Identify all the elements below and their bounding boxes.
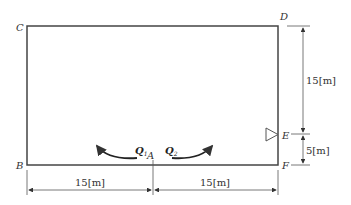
flow-q1-arrow (97, 146, 137, 158)
flow-q1-label: Q1 (135, 145, 148, 157)
label-D: D (279, 11, 288, 22)
flow-q2-arrow (172, 146, 212, 158)
dim-label-right-lower: 5[m] (306, 145, 330, 156)
dim-label-bottom-left: 15[m] (75, 177, 105, 188)
label-F: F (281, 160, 290, 171)
flow-q2-label: Q2 (165, 145, 178, 157)
outlet-triangle-icon (266, 128, 278, 141)
label-C: C (16, 22, 24, 33)
room-diagram: C D B F E A Q1 Q2 15[m] 15[m] 15[m] 5[m] (0, 0, 351, 205)
label-E: E (281, 130, 290, 141)
dim-label-bottom-right: 15[m] (200, 177, 230, 188)
dim-label-right-upper: 15[m] (306, 75, 336, 86)
room-outline (27, 26, 278, 165)
label-B: B (15, 160, 23, 171)
